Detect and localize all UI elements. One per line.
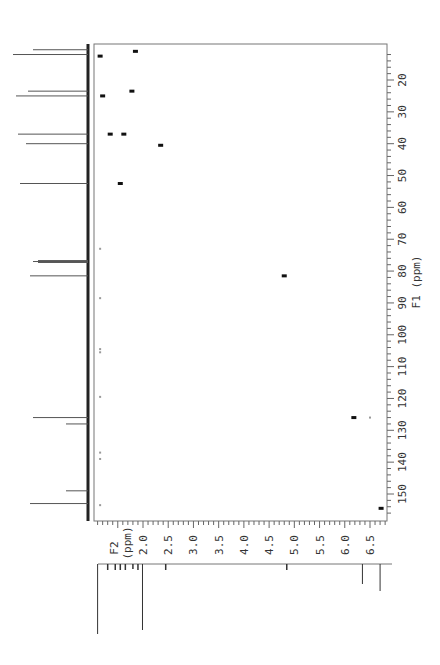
- weak-peak: [99, 458, 101, 460]
- f2-axis: 2.02.53.03.54.04.55.05.56.06.5: [98, 521, 386, 555]
- weak-peak: [99, 248, 101, 250]
- f2-tick-label: 2.0: [137, 535, 150, 555]
- weak-peak: [99, 504, 101, 506]
- cross-peak: [282, 274, 287, 277]
- f1-axis: 2030405060708090100110120130140150: [387, 55, 409, 514]
- f1-tick-label: 80: [396, 264, 409, 277]
- plot-frame: [94, 44, 387, 521]
- cross-peak: [158, 144, 163, 147]
- f1-tick-label: 30: [396, 105, 409, 118]
- f2-tick-label: 3.5: [213, 535, 226, 555]
- nmr-2d-spectrum: 2030405060708090100110120130140150 2.02.…: [0, 0, 440, 665]
- f2-tick-label: 4.0: [238, 535, 251, 555]
- weak-peak: [369, 417, 371, 419]
- cross-peak: [118, 182, 123, 185]
- cross-peak: [108, 133, 113, 136]
- weak-peak: [99, 396, 101, 398]
- weak-peak: [99, 351, 101, 353]
- weak-peak: [99, 297, 101, 299]
- f1-tick-label: 60: [396, 201, 409, 214]
- cross-peak: [379, 507, 384, 510]
- f1-tick-label: 100: [396, 325, 409, 345]
- f2-tick-label: 6.5: [364, 535, 377, 555]
- f1-tick-label: 50: [396, 169, 409, 182]
- cross-peaks: [98, 50, 384, 510]
- axis-titles: F1 (ppm)F2(ppm): [108, 256, 423, 560]
- f1-tick-label: 90: [396, 296, 409, 309]
- f2-axis-title-line2: (ppm): [121, 526, 134, 559]
- cross-peak: [129, 90, 134, 93]
- f1-tick-label: 110: [396, 357, 409, 377]
- cross-peak: [133, 50, 138, 53]
- f2-tick-label: 4.5: [263, 535, 276, 555]
- f1-tick-label: 120: [396, 389, 409, 409]
- f2-tick-label: 5.5: [314, 535, 327, 555]
- f1-tick-label: 140: [396, 452, 409, 472]
- f2-tick-label: 2.5: [162, 535, 175, 555]
- f1-tick-label: 20: [396, 73, 409, 86]
- cross-peak: [121, 133, 126, 136]
- f2-tick-label: 3.0: [187, 535, 200, 555]
- f2-tick-label: 5.0: [288, 535, 301, 555]
- cross-peak: [98, 55, 103, 58]
- f1-tick-label: 150: [396, 484, 409, 504]
- cross-peak: [100, 94, 105, 97]
- f1-tick-label: 40: [396, 137, 409, 150]
- f2-axis-title-line1: F2: [108, 541, 121, 554]
- f1-projection-spectrum: [13, 44, 88, 521]
- f2-tick-label: 6.0: [339, 535, 352, 555]
- f1-tick-label: 70: [396, 233, 409, 246]
- f2-projection-spectrum: [98, 564, 392, 634]
- weak-peak: [99, 348, 101, 350]
- weak-peak: [99, 452, 101, 454]
- cross-peak: [351, 416, 356, 419]
- f1-axis-title: F1 (ppm): [410, 256, 423, 309]
- f1-tick-label: 130: [396, 420, 409, 440]
